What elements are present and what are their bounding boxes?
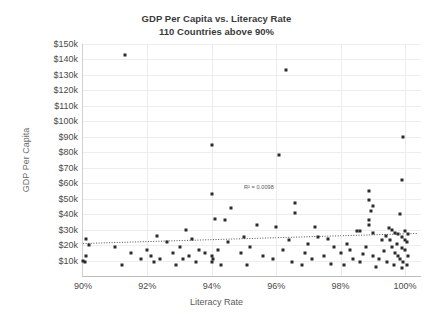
data-point <box>178 245 181 248</box>
data-point <box>362 253 365 256</box>
data-point <box>352 257 355 260</box>
data-point <box>405 264 408 267</box>
data-point <box>284 69 287 72</box>
gridline-vertical <box>341 44 342 276</box>
data-point <box>211 261 214 264</box>
chart-subtitle: 110 Countries above 90% <box>0 26 433 39</box>
y-axis-tick-label: $110k <box>8 101 78 111</box>
data-point <box>358 230 361 233</box>
gridline-horizontal <box>83 121 421 122</box>
data-point <box>378 257 381 260</box>
data-point <box>392 264 395 267</box>
data-point <box>400 267 403 270</box>
data-point <box>368 189 371 192</box>
data-point <box>191 237 194 240</box>
data-point <box>255 223 258 226</box>
data-point <box>146 248 149 251</box>
y-axis-tick-label: $90k <box>8 132 78 142</box>
data-point <box>403 248 406 251</box>
trendline <box>83 44 421 276</box>
gridline-horizontal <box>83 261 421 262</box>
data-point <box>368 199 371 202</box>
data-point <box>188 254 191 257</box>
data-point <box>400 179 403 182</box>
gridline-horizontal <box>83 90 421 91</box>
data-point <box>389 239 392 242</box>
data-point <box>407 254 410 257</box>
scatter-chart: GDP Per Capita vs. Literacy Rate 110 Cou… <box>0 0 433 322</box>
data-point <box>152 261 155 264</box>
x-axis-label: Literacy Rate <box>0 297 433 307</box>
y-axis-tick-label: $130k <box>8 70 78 80</box>
data-point <box>349 248 352 251</box>
gridline-horizontal <box>83 137 421 138</box>
data-point <box>281 248 284 251</box>
data-point <box>246 264 249 267</box>
data-point <box>329 262 332 265</box>
data-point <box>371 231 374 234</box>
data-point <box>197 248 200 251</box>
data-point <box>210 143 213 146</box>
x-axis-tick-label: 90% <box>53 281 113 291</box>
data-point <box>399 213 402 216</box>
data-point <box>371 205 374 208</box>
x-axis-tick-label: 92% <box>117 281 177 291</box>
data-point <box>407 233 410 236</box>
data-point <box>381 239 384 242</box>
y-axis-tick-label: $40k <box>8 209 78 219</box>
data-point <box>323 254 326 257</box>
data-point <box>370 210 373 213</box>
gridline-horizontal <box>83 245 421 246</box>
data-point <box>85 254 88 257</box>
y-axis-tick-label: $50k <box>8 194 78 204</box>
gridline-horizontal <box>83 106 421 107</box>
data-point <box>149 254 152 257</box>
data-point <box>304 251 307 254</box>
data-point <box>223 219 226 222</box>
data-point <box>307 242 310 245</box>
data-point <box>402 135 405 138</box>
y-axis-tick-label: $80k <box>8 147 78 157</box>
data-point <box>175 264 178 267</box>
x-axis-tick-label: 98% <box>311 281 371 291</box>
data-point <box>358 261 361 264</box>
data-point <box>345 242 348 245</box>
data-point <box>88 244 91 247</box>
data-point <box>226 240 229 243</box>
gridline-horizontal <box>83 152 421 153</box>
data-point <box>405 240 408 243</box>
y-axis-tick-label: $140k <box>8 54 78 64</box>
data-point <box>159 257 162 260</box>
data-point <box>249 245 252 248</box>
x-axis-tick-label: 100% <box>375 281 433 291</box>
data-point <box>294 211 297 214</box>
data-point <box>316 236 319 239</box>
data-point <box>300 264 303 267</box>
gridline-vertical <box>212 44 213 276</box>
r-squared-annotation: R² = 0.0098 <box>244 184 274 190</box>
data-point <box>395 242 398 245</box>
gridline-horizontal <box>83 168 421 169</box>
chart-title: GDP Per Capita vs. Literacy Rate <box>0 13 433 26</box>
data-point <box>374 265 377 268</box>
data-point <box>382 250 385 253</box>
data-point <box>326 237 329 240</box>
data-point <box>239 251 242 254</box>
gridline-horizontal <box>83 214 421 215</box>
data-point <box>85 237 88 240</box>
y-axis-tick-label: $60k <box>8 178 78 188</box>
data-point <box>262 254 265 257</box>
y-axis-tick-label: $120k <box>8 85 78 95</box>
gridline-horizontal <box>83 59 421 60</box>
data-point <box>139 257 142 260</box>
data-point <box>213 217 216 220</box>
data-point <box>185 228 188 231</box>
data-point <box>288 239 291 242</box>
data-point <box>217 248 220 251</box>
data-point <box>130 251 133 254</box>
plot-area: $10k$20k$30k$40k$50k$60k$70k$80k$90k$100… <box>82 44 421 277</box>
x-axis-tick-label: 94% <box>182 281 242 291</box>
y-axis-tick-label: $20k <box>8 240 78 250</box>
data-point <box>371 254 374 257</box>
x-axis-tick-label: 96% <box>246 281 306 291</box>
